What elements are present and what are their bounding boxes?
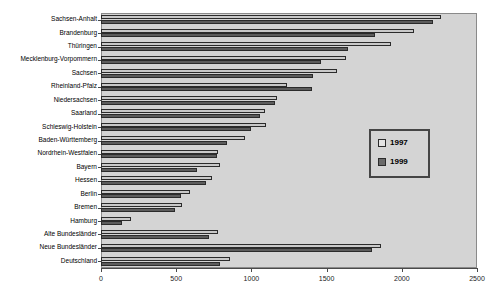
legend-swatch-1999-icon [378,158,386,166]
bar-1997-bayern[interactable] [101,163,220,167]
x-tick-label: 1500 [319,274,335,283]
bar-1997-deutschland[interactable] [101,257,230,261]
bar-1999-alte-bundesl-nder[interactable] [101,235,209,239]
bar-1997-bremen[interactable] [101,203,182,207]
y-axis-category-label: Hessen [75,176,97,184]
y-axis-category-label: Niedersachsen [54,96,97,104]
x-tick-label: 2500 [469,274,485,283]
y-axis-category-label: Sachsen-Anhalt [51,15,97,23]
bar-1999-hessen[interactable] [101,181,206,185]
bar-1999-niedersachsen[interactable] [101,101,275,105]
bar-1997-baden-w-rttemberg[interactable] [101,136,245,140]
y-axis-category-label: Thüringen [68,42,97,50]
y-axis-category-label: Saarland [71,109,97,117]
bar-1999-bremen[interactable] [101,208,175,212]
bar-1999-mecklenburg-vorpommern[interactable] [101,60,321,64]
y-axis-category-label: Rheinland-Pfalz [51,82,97,90]
y-axis-category-label: Sachsen [72,69,97,77]
legend-label-1999: 1999 [390,157,408,166]
bar-1997-neue-bundesl-nder[interactable] [101,244,381,248]
x-tick-label: 2000 [394,274,410,283]
x-tick-label: 500 [170,274,182,283]
bar-1999-bayern[interactable] [101,168,197,172]
bar-chart: 05001000150020002500 Sachsen-AnhaltBrand… [0,0,499,296]
legend-label-1997: 1997 [390,138,408,147]
bar-1999-th-ringen[interactable] [101,47,348,51]
x-tick-label: 0 [99,274,103,283]
y-axis-category-label: Bayern [76,163,97,171]
x-tick [327,268,328,272]
y-axis-category-label: Neue Bundesländer [40,243,97,251]
bar-1997-berlin[interactable] [101,190,190,194]
bar-1997-nordrhein-westfalen[interactable] [101,150,218,154]
bar-1997-schleswig-holstein[interactable] [101,123,266,127]
legend-item-1997[interactable]: 1997 [378,138,408,147]
chart-legend[interactable]: 1997 1999 [369,129,430,178]
bar-1999-nordrhein-westfalen[interactable] [101,154,217,158]
bar-1999-sachsen[interactable] [101,74,313,78]
y-axis-category-label: Bremen [74,203,97,211]
bar-1997-brandenburg[interactable] [101,29,414,33]
bar-1999-deutschland[interactable] [101,262,220,266]
bar-1999-brandenburg[interactable] [101,33,375,37]
bar-1999-schleswig-holstein[interactable] [101,127,251,131]
bar-1997-saarland[interactable] [101,109,265,113]
bar-1999-neue-bundesl-nder[interactable] [101,248,372,252]
x-axis-line [101,268,477,269]
y-axis-category-label: Schleswig-Holstein [42,123,97,131]
bar-1997-mecklenburg-vorpommern[interactable] [101,56,346,60]
y-axis-category-label: Mecklenburg-Vorpommern [20,55,97,63]
bar-1997-hamburg[interactable] [101,217,131,221]
y-axis-category-label: Hamburg [70,217,97,225]
y-axis-category-label: Nordrhein-Westfalen [38,149,98,157]
bar-1997-niedersachsen[interactable] [101,96,277,100]
bar-1999-sachsen-anhalt[interactable] [101,20,433,24]
bar-1999-berlin[interactable] [101,194,181,198]
x-tick [402,268,403,272]
bar-1997-sachsen[interactable] [101,69,337,73]
y-axis-category-label: Berlin [80,190,97,198]
bar-1997-sachsen-anhalt[interactable] [101,15,441,19]
y-axis-category-label: Alte Bundesländer [44,230,97,238]
bar-1999-baden-w-rttemberg[interactable] [101,141,227,145]
y-axis-category-label: Brandenburg [59,29,97,37]
bar-1999-rheinland-pfalz[interactable] [101,87,312,91]
y-axis-category-label: Baden-Württemberg [38,136,97,144]
x-tick-label: 1000 [244,274,260,283]
x-tick [251,268,252,272]
bar-1997-rheinland-pfalz[interactable] [101,83,287,87]
x-tick [101,268,102,272]
x-tick [176,268,177,272]
y-axis-category-label: Deutschland [61,257,97,265]
x-tick [477,268,478,272]
bar-1997-alte-bundesl-nder[interactable] [101,230,218,234]
bar-1997-th-ringen[interactable] [101,42,391,46]
bar-1999-hamburg[interactable] [101,221,122,225]
legend-swatch-1997-icon [378,139,386,147]
legend-item-1999[interactable]: 1999 [378,157,408,166]
bar-1997-hessen[interactable] [101,176,212,180]
bar-1999-saarland[interactable] [101,114,260,118]
